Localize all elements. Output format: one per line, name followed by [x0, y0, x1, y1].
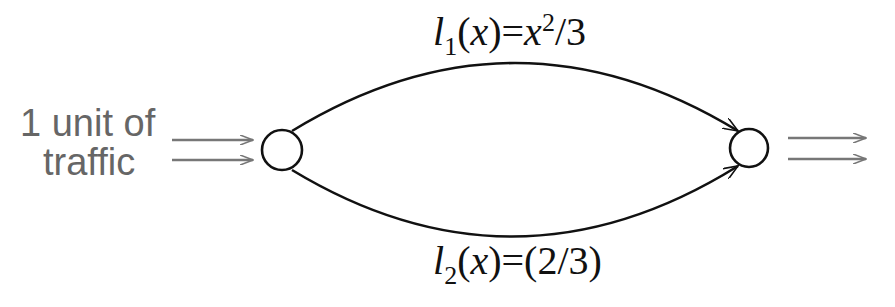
bottom-edge-label: l2(x)=(2/3) [433, 238, 602, 290]
source-label: 1 unit of traffic [20, 102, 156, 183]
label-x: x [469, 9, 488, 54]
label-x-squared-base: x [523, 9, 542, 54]
label-superscript: 2 [542, 8, 555, 37]
source-node [262, 130, 302, 170]
source-label-line2: traffic [43, 141, 135, 183]
label-rest: /3 [555, 9, 586, 54]
source-label-line1: 1 unit of [20, 102, 156, 144]
label-l: l [433, 9, 444, 54]
outgoing-arrows [788, 138, 866, 159]
label-close-eq: )=(2/3) [488, 238, 602, 283]
label-subscript: 2 [444, 261, 457, 290]
label-close-eq: )= [488, 9, 524, 54]
top-edge [292, 63, 738, 131]
label-open-paren: ( [457, 9, 470, 54]
network-diagram: 1 unit of traffic l1(x)=x2/3 l2(x)=(2/3) [0, 0, 895, 307]
incoming-arrows [172, 140, 253, 160]
label-open-paren: ( [457, 238, 470, 283]
top-edge-label: l1(x)=x2/3 [433, 8, 586, 61]
label-subscript: 1 [444, 32, 457, 61]
bottom-edge [292, 166, 738, 237]
sink-node [730, 129, 768, 167]
label-x: x [469, 238, 488, 283]
label-l: l [433, 238, 444, 283]
